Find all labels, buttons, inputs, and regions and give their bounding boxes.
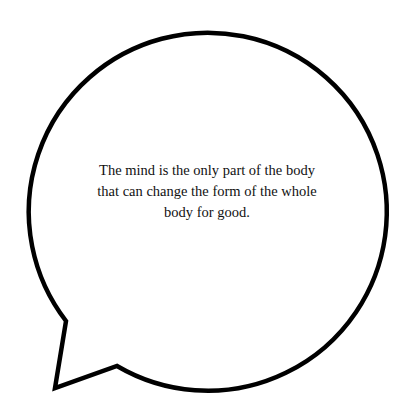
quote-text: The mind is the only part of the body th… (94, 160, 320, 223)
